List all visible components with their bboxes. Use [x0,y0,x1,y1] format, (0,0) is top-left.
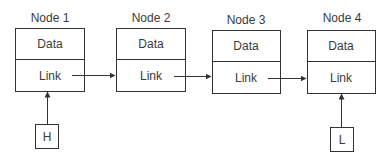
node-3: Node 3 Data Link [213,13,281,94]
link-field: Link [330,71,353,85]
node-title: Node 2 [132,11,171,25]
last-pointer: L [331,94,354,152]
node-2: Node 2 Data Link [117,11,186,92]
node-title: Node 4 [323,11,362,25]
data-field: Data [37,37,63,51]
node-1: Node 1 Data Link [16,11,85,92]
node-title: Node 1 [31,11,70,25]
node-4: Node 4 Data Link [308,11,376,94]
node-title: Node 3 [227,13,266,27]
data-field: Data [138,37,164,51]
head-pointer: H [36,92,59,149]
last-label: L [339,133,346,147]
data-field: Data [328,39,354,53]
head-label: H [43,130,52,144]
link-field: Link [140,69,163,83]
link-field: Link [235,71,258,85]
data-field: Data [233,39,259,53]
linked-list-diagram: Node 1 Data Link Node 2 Data Link Node 3… [0,0,392,160]
link-field: Link [39,69,62,83]
